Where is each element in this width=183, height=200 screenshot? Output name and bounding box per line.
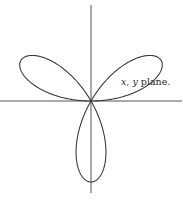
rose-curve-diagram [0,0,183,200]
label-text: plane. [138,76,171,87]
xy-plane-label: x, y plane. [121,76,170,87]
